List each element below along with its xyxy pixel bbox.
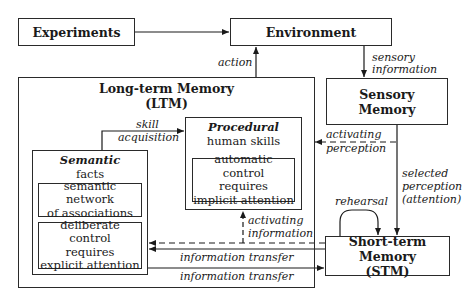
activating-information-label-1: activating [248,214,304,227]
semantic-title: Semantic [33,154,147,168]
sensory-line1: Sensory [359,87,414,102]
sensory-memory-box: Sensory Memory [326,78,448,125]
procedural-title: Procedural [186,121,301,135]
skill-label-1: skill [136,118,159,131]
transfer-label-2: information transfer [180,270,294,283]
selected-label-1: selected [402,167,448,180]
semantic-network-box: semantic network of associations [38,183,142,217]
experiments-box: Experiments [18,18,135,46]
automatic-line3: implicit attention [193,194,294,208]
activating-perception-label-2: perception [326,142,386,155]
rehearsal-loop-arrow [340,210,378,236]
automatic-control-box: automatic control requires implicit atte… [192,158,295,202]
ltm-title: Long-term Memory [19,81,314,96]
selected-label-2: perception [402,180,462,193]
activating-perception-label-1: activating [326,128,382,141]
deliberate-line3: explicit attention [40,259,139,273]
ltm-subtitle: (LTM) [19,96,314,111]
transfer-label-1: information transfer [180,251,294,264]
procedural-subtitle: human skills [186,135,301,149]
environment-label: Environment [266,25,357,40]
action-label: action [218,56,252,69]
procedural-box: Procedural human skills automatic contro… [185,117,302,210]
rehearsal-label: rehearsal [335,195,388,208]
stm-box: Short-term Memory (STM) [325,236,450,276]
experiments-label: Experiments [32,25,120,40]
environment-box: Environment [230,18,392,46]
selected-label-3: (attention) [402,193,461,206]
deliberate-line2: requires [66,246,115,260]
semantic-box: Semantic facts semantic network of assoc… [32,150,148,275]
automatic-line2: requires [219,180,268,194]
sensory-line2: Memory [358,102,415,117]
stm-line2: (STM) [366,264,410,279]
semantic-network-line1: semantic network [39,180,141,207]
deliberate-control-box: deliberate control requires explicit att… [38,222,142,269]
skill-label-2: acquisition [118,131,179,144]
automatic-line1: automatic control [193,153,294,180]
stm-line1: Short-term Memory [326,234,449,264]
activating-information-label-2: information [248,227,313,240]
sensory-info-label-2: information [372,63,437,76]
deliberate-line1: deliberate control [39,219,141,246]
